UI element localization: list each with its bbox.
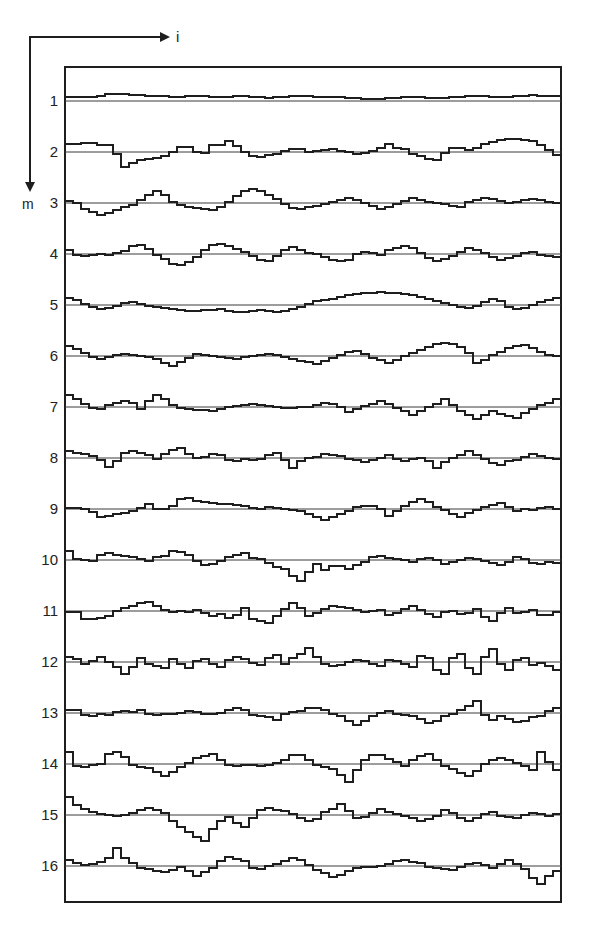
y-axis-label: m xyxy=(22,196,34,212)
trace-row-15: 15 xyxy=(41,797,561,841)
trace-row-14: 14 xyxy=(41,752,561,782)
row-label: 12 xyxy=(41,653,58,670)
trace-row-3: 3 xyxy=(50,189,561,215)
figure-canvas: i m 12345678910111213141516 xyxy=(0,0,590,931)
trace-row-8: 8 xyxy=(50,448,561,468)
trace-row-4: 4 xyxy=(50,244,561,265)
row-label: 3 xyxy=(50,194,58,211)
row-label: 16 xyxy=(41,857,58,874)
step-trace xyxy=(65,189,561,215)
step-trace xyxy=(65,602,561,623)
row-label: 15 xyxy=(41,806,58,823)
trace-row-12: 12 xyxy=(41,648,561,674)
row-label: 11 xyxy=(42,602,58,619)
row-label: 5 xyxy=(50,296,58,313)
step-trace xyxy=(65,648,561,674)
trace-row-6: 6 xyxy=(50,343,561,366)
trace-row-9: 9 xyxy=(50,498,561,520)
row-label: 10 xyxy=(41,551,58,568)
step-trace xyxy=(65,752,561,782)
trace-row-5: 5 xyxy=(50,292,561,313)
row-label: 7 xyxy=(50,398,58,415)
row-label: 9 xyxy=(50,500,58,517)
step-trace xyxy=(65,292,561,312)
axis-arrow-i xyxy=(30,37,162,190)
step-trace xyxy=(65,343,561,366)
row-label: 14 xyxy=(41,755,58,772)
trace-row-13: 13 xyxy=(41,701,561,725)
row-label: 1 xyxy=(50,92,58,109)
step-trace xyxy=(65,797,561,841)
trace-row-10: 10 xyxy=(41,551,561,581)
trace-row-16: 16 xyxy=(41,848,561,884)
step-trace xyxy=(65,94,561,99)
trace-row-2: 2 xyxy=(50,139,561,167)
trace-row-7: 7 xyxy=(50,395,561,419)
arrow-head-down-icon xyxy=(25,182,35,192)
row-label: 6 xyxy=(50,347,58,364)
x-axis-label: i xyxy=(176,28,179,45)
row-label: 2 xyxy=(50,143,58,160)
axis-indicator: i m xyxy=(22,28,179,212)
step-trace xyxy=(65,139,561,167)
step-trace xyxy=(65,551,561,581)
row-label: 13 xyxy=(41,704,58,721)
plot-frame xyxy=(65,67,561,902)
trace-row-1: 1 xyxy=(50,92,561,109)
trace-rows: 12345678910111213141516 xyxy=(41,92,561,884)
arrow-head-right-icon xyxy=(160,32,170,42)
row-label: 4 xyxy=(50,245,58,262)
trace-row-11: 11 xyxy=(42,602,561,623)
row-label: 8 xyxy=(50,449,58,466)
